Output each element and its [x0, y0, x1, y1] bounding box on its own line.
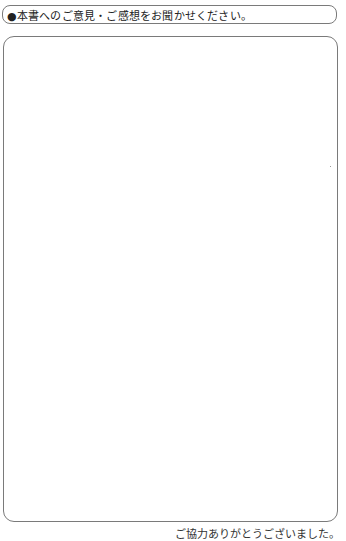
question-title: ●本書へのご意見・ご感想をお聞かせください。	[7, 7, 252, 23]
thanks-note: ご協力ありがとうございました。	[175, 525, 340, 541]
stray-mark	[330, 166, 331, 167]
question-header: ●本書へのご意見・ご感想をお聞かせください。	[2, 5, 337, 24]
comment-answer-box[interactable]	[3, 36, 338, 522]
